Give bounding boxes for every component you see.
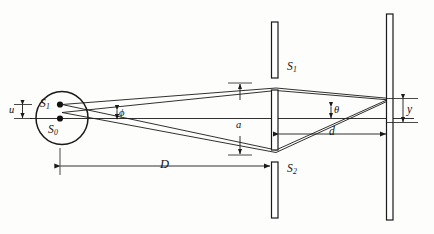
angle-phi-label: ϕ bbox=[119, 108, 124, 119]
ray-s1-to-slit1 bbox=[62, 88, 276, 105]
ray-s1-to-slit2 bbox=[62, 105, 276, 151]
slit-s1-label: S1 bbox=[287, 61, 297, 74]
ray-slit1-lower-to-screen bbox=[276, 91, 390, 101]
ray-slit1-to-screen bbox=[276, 88, 390, 99]
source-point-s0-dot bbox=[57, 115, 63, 121]
source-point-s0-label: S0 bbox=[48, 124, 58, 137]
barrier-segment-middle bbox=[272, 90, 279, 150]
observation-screen bbox=[387, 14, 394, 220]
dimension-u-label: u bbox=[9, 105, 14, 116]
angle-theta-label: θ bbox=[334, 105, 339, 116]
ray-s0-to-slit1 bbox=[62, 91, 276, 113]
dimension-D-label: D bbox=[160, 158, 169, 171]
dimension-a-label: a bbox=[236, 120, 241, 131]
optics-ray-diagram: S1 S0 u ϕ θ S1 S2 a D d y bbox=[0, 0, 434, 234]
source-point-s1-label: S1 bbox=[40, 98, 50, 111]
barrier-segment-top bbox=[272, 22, 279, 78]
dimension-d-label: d bbox=[329, 126, 335, 138]
barrier-segment-bottom bbox=[272, 162, 279, 218]
dimension-y-label: y bbox=[407, 104, 412, 116]
diagram-canvas bbox=[0, 0, 434, 234]
slit-s2-label: S2 bbox=[287, 163, 297, 176]
